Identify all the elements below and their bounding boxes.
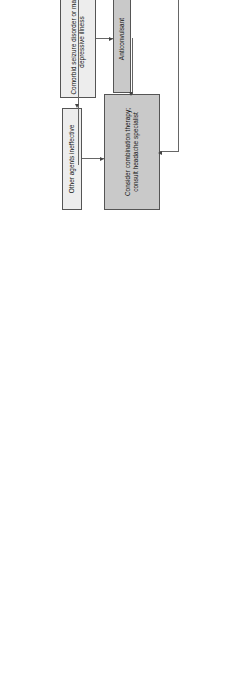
edge-anticonvulsant-terminal-across (132, 38, 133, 94)
node-other-agents-ineffective-label: Other agents ineffective (68, 111, 76, 207)
edge-beta-ineffective-up (160, 151, 178, 152)
arrow-anticonvulsant-terminal (129, 92, 133, 96)
node-treatment-anticonvulsant-label: Anticonvulsant (118, 0, 126, 90)
arrow-spine-to-other-agents (75, 104, 79, 108)
node-consider-combination[interactable]: Consider combination therapy; consult he… (104, 94, 160, 210)
arrow-seizure-to-anticonvulsant (109, 37, 113, 41)
edge-spine-main (78, 0, 79, 165)
node-consider-combination-label: Consider combination therapy; consult he… (124, 97, 140, 207)
edge-beta-ineffective-across (178, 0, 179, 152)
arrow-beta-to-terminal (158, 151, 162, 155)
node-treatment-anticonvulsant[interactable]: Anticonvulsant (113, 0, 131, 93)
arrow-other-agents-to-terminal (100, 157, 104, 161)
node-other-agents-ineffective[interactable]: Other agents ineffective (62, 108, 82, 210)
flowchart-canvas: Patient meets criteria for prophylactic … (0, 0, 226, 226)
